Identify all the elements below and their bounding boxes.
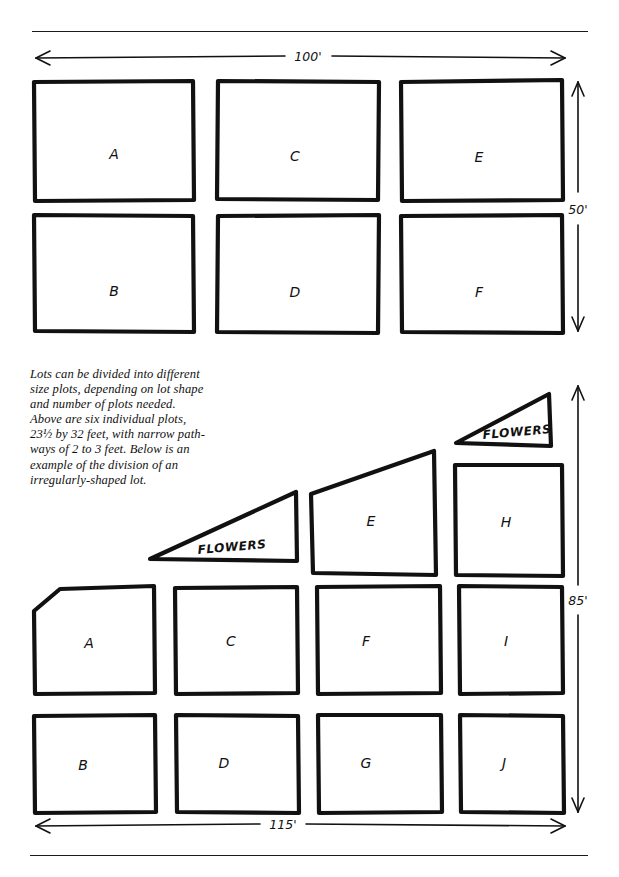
caption-line: 23½ by 32 feet, with narrow path-	[30, 427, 242, 442]
caption-line: and number of plots needed.	[30, 397, 242, 412]
top-plot-B-outline	[34, 215, 194, 332]
top-plot-F-outline	[401, 215, 563, 333]
plot-label-top-E: E	[475, 149, 484, 165]
dimension-label-bottom-height: 85'	[565, 593, 590, 608]
bottom-plot-C-outline	[175, 587, 298, 694]
plot-label-top-C: C	[290, 148, 300, 164]
plot-label-bottom-E: E	[367, 513, 376, 529]
caption-line: Above are six individual plots,	[30, 412, 242, 427]
top-plot-A-outline	[34, 81, 194, 201]
top-plot-D-outline	[217, 215, 379, 333]
bottom-plot-I-outline	[459, 586, 563, 694]
caption-line: example of the division of an	[30, 458, 242, 473]
plot-label-bottom-B: B	[78, 757, 88, 773]
plot-label-top-A: A	[109, 146, 119, 162]
plot-label-top-D: D	[290, 284, 301, 300]
bottom-plot-D-outline	[176, 715, 299, 813]
plot-label-bottom-C: C	[226, 633, 236, 649]
plot-label-top-F: F	[475, 284, 483, 300]
plot-label-bottom-I: I	[504, 633, 508, 649]
caption-line: size plots, depending on lot shape	[30, 382, 242, 397]
plot-label-bottom-A: A	[84, 635, 94, 651]
caption-line: ways of 2 to 3 feet. Below is an	[30, 442, 242, 457]
dimension-arrow-bottom-width	[36, 819, 565, 833]
bottom-plot-J-outline	[460, 715, 564, 813]
plot-label-top-B: B	[109, 283, 119, 299]
dimension-label-top-height: 50'	[565, 202, 590, 217]
caption-text: Lots can be divided into different size …	[30, 367, 242, 488]
top-plot-E-outline	[401, 80, 563, 201]
bottom-plot-G-outline	[318, 715, 442, 813]
plot-label-bottom-G: G	[361, 755, 372, 771]
dimension-label-top-width: 100'	[291, 49, 324, 64]
caption-line: irregularly-shaped lot.	[30, 473, 242, 488]
bottom-plot-B-outline	[34, 715, 156, 813]
top-plot-C-outline	[217, 81, 379, 200]
caption-line: Lots can be divided into different	[30, 367, 242, 382]
page-canvas: Lots can be divided into different size …	[0, 0, 619, 877]
bottom-plot-A-outline	[34, 586, 155, 694]
plot-label-bottom-D: D	[219, 755, 230, 771]
plot-label-bottom-H: H	[501, 514, 512, 530]
bottom-plot-F-outline	[317, 586, 441, 694]
plot-label-bottom-J: J	[502, 755, 506, 771]
dimension-label-bottom-width: 115'	[266, 817, 299, 832]
plot-label-bottom-F: F	[362, 633, 370, 649]
